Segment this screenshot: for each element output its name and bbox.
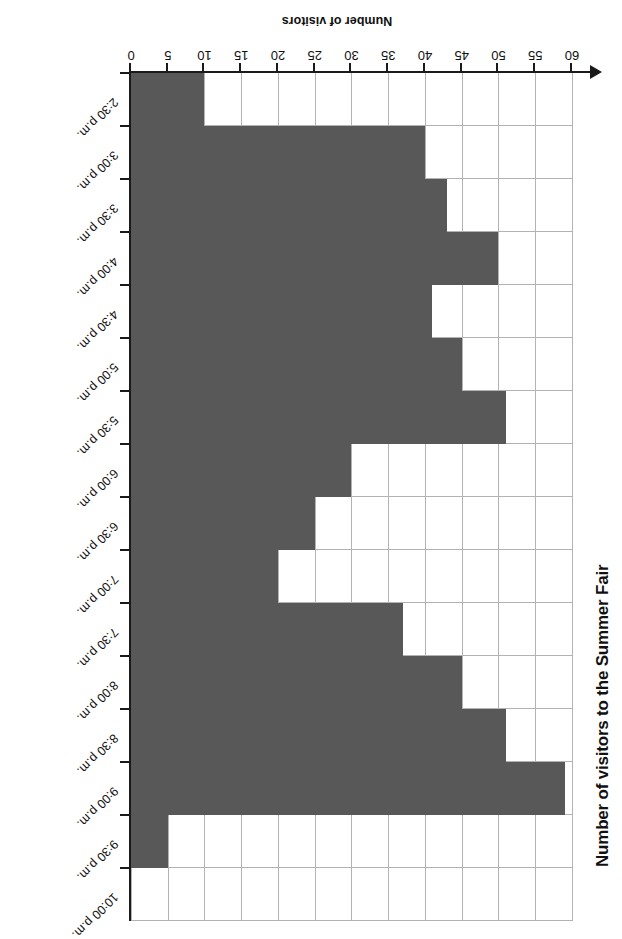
category-axis-tick — [120, 602, 129, 604]
value-axis-tick — [350, 63, 352, 72]
category-axis-tick — [120, 284, 129, 286]
category-axis-tick — [120, 867, 129, 869]
bar — [131, 391, 506, 444]
category-axis-tick — [120, 231, 129, 233]
category-axis-tick — [120, 814, 129, 816]
bar — [131, 73, 205, 126]
value-axis-arrow-icon — [590, 65, 602, 79]
value-axis-tick — [166, 63, 168, 72]
category-axis-tick — [120, 337, 129, 339]
value-axis-tick — [386, 63, 388, 72]
category-axis-tick-label: 9:00 p.m. — [74, 785, 121, 832]
value-axis-title: Number of visitors — [92, 10, 582, 32]
value-axis-tick-label: 10 — [185, 48, 225, 63]
category-axis-tick — [120, 178, 129, 180]
value-axis-tick — [313, 63, 315, 72]
bar — [131, 656, 462, 709]
value-axis-tick-label: 40 — [405, 48, 445, 63]
value-axis-tick-label: 25 — [295, 48, 335, 63]
category-axis-tick-label: 5:00 p.m. — [74, 361, 121, 408]
value-axis-tick — [129, 63, 131, 72]
category-axis-tick-label: 5:30 p.m. — [74, 414, 121, 461]
bar — [131, 550, 278, 603]
value-axis-tick — [570, 63, 572, 72]
category-axis-tick — [120, 761, 129, 763]
category-axis-tick-label: 9:30 p.m. — [74, 838, 121, 885]
category-axis-tick-label: 4:30 p.m. — [74, 308, 121, 355]
category-axis-tick — [120, 549, 129, 551]
chart-title: Number of visitors to the Summer Fair — [586, 0, 620, 929]
value-axis-tick — [497, 63, 499, 72]
category-axis-line — [129, 72, 131, 921]
category-axis-tick-label: 2:30 p.m. — [74, 96, 121, 143]
value-axis-tick-label: 15 — [221, 48, 261, 63]
plot-area — [131, 73, 572, 921]
value-axis-tick-label: 55 — [515, 48, 555, 63]
value-axis-tick-label: 5 — [148, 48, 188, 63]
value-axis-tick-label: 0 — [111, 48, 151, 63]
category-axis-tick-label: 8:30 p.m. — [74, 732, 121, 779]
category-axis-tick — [120, 443, 129, 445]
value-axis-tick-label: 30 — [332, 48, 372, 63]
category-axis-tick — [120, 125, 129, 127]
category-axis-tick-label: 4:00 p.m. — [74, 255, 121, 302]
bar — [131, 338, 462, 391]
bar — [131, 444, 352, 497]
category-gridline — [131, 920, 572, 921]
category-axis-tick-label: 6:30 p.m. — [74, 520, 121, 567]
bar — [131, 709, 506, 762]
value-axis-tick-label: 50 — [479, 48, 519, 63]
bar — [131, 603, 403, 656]
bar — [131, 497, 315, 550]
category-axis-tick — [120, 496, 129, 498]
value-axis-tick — [276, 63, 278, 72]
value-axis-tick — [423, 63, 425, 72]
category-axis-tick-label: 7:30 p.m. — [74, 626, 121, 673]
category-axis-tick — [120, 72, 129, 74]
category-axis-tick — [120, 708, 129, 710]
bar — [131, 762, 565, 815]
bar — [131, 815, 168, 868]
category-axis-tick-label: 8:00 p.m. — [74, 679, 121, 726]
value-axis-tick — [533, 63, 535, 72]
bar — [131, 285, 432, 338]
value-axis-line — [130, 71, 592, 73]
bar — [131, 126, 425, 179]
category-axis-tick-label: 10:00 p.m. — [69, 891, 121, 939]
bar — [131, 232, 499, 285]
value-axis-tick — [460, 63, 462, 72]
value-axis-tick — [239, 63, 241, 72]
value-axis-tick-label: 45 — [442, 48, 482, 63]
value-gridline — [572, 73, 573, 921]
category-axis-tick-label: 6:00 p.m. — [74, 467, 121, 514]
category-axis-tick-label: 3:30 p.m. — [74, 202, 121, 249]
category-gridline — [131, 867, 572, 868]
value-axis-tick — [203, 63, 205, 72]
category-axis-tick-label: 7:00 p.m. — [74, 573, 121, 620]
value-axis-tick-label: 35 — [368, 48, 408, 63]
value-axis-tick-label: 20 — [258, 48, 298, 63]
category-axis-tick — [120, 390, 129, 392]
category-axis-tick-label: 3:00 p.m. — [74, 149, 121, 196]
value-axis-tick-label: 60 — [552, 48, 592, 63]
category-axis-tick — [120, 655, 129, 657]
bar — [131, 179, 447, 232]
